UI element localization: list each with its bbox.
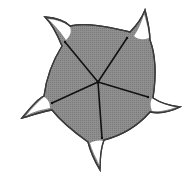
pinwheel-diagram xyxy=(0,0,195,184)
node-top-left xyxy=(64,41,66,43)
node-right xyxy=(147,96,149,98)
node-top-right xyxy=(126,37,128,39)
diagram-canvas xyxy=(0,0,195,184)
node-left xyxy=(51,102,53,104)
center-node xyxy=(96,80,99,83)
node-bottom xyxy=(101,137,103,139)
